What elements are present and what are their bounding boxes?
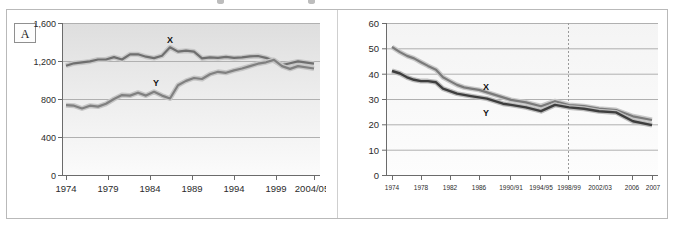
panel-b-xtick-1998-99: 1998/99 (557, 184, 581, 191)
panel-b-y-tickmarks (382, 24, 386, 176)
panel-a-ytick-0: 0 (51, 171, 56, 181)
panel-b-ytick-0: 0 (374, 170, 379, 181)
panel-a-ytick-1600: 1,600 (33, 19, 56, 29)
panel-a-y-tickmarks (58, 24, 62, 176)
panel-b: B (338, 0, 676, 229)
panel-b-xtick-1986: 1986 (472, 184, 487, 191)
panel-b-xtick-1978: 1978 (414, 184, 429, 191)
panel-b-xtick-1982: 1982 (443, 184, 458, 191)
figure-container: A (0, 0, 676, 229)
panel-a-xtick-1974: 1974 (55, 183, 76, 194)
panel-b-label-x: X (483, 82, 489, 92)
panel-a-xtick-1984: 1984 (139, 183, 160, 194)
panel-b-ytick-10: 10 (368, 145, 379, 156)
panel-a-plot: 1,600 1,200 800 400 0 1974 1979 1984 198… (14, 18, 326, 208)
panel-a-xtick-1999: 1999 (265, 183, 286, 194)
panel-b-plot: 60 50 40 30 20 10 0 1974 1978 1982 1986 … (352, 18, 664, 208)
panel-a-ytick-1200: 1,200 (33, 57, 56, 67)
panel-a-label-y: Y (153, 78, 159, 88)
panel-a-ytick-400: 400 (41, 133, 56, 143)
panel-b-xtick-2002-03: 2002/03 (588, 184, 612, 191)
panel-b-label-y: Y (483, 108, 489, 118)
panel-a-ytick-800: 800 (41, 95, 56, 105)
panel-b-svg: 60 50 40 30 20 10 0 1974 1978 1982 1986 … (352, 18, 664, 208)
panel-b-ytick-60: 60 (368, 18, 379, 29)
panel-b-ytick-20: 20 (368, 119, 379, 130)
panel-b-ytick-40: 40 (368, 69, 379, 80)
panel-a-xtick-1979: 1979 (97, 183, 118, 194)
panel-b-xtick-1990-91: 1990/91 (499, 184, 523, 191)
panel-a-xtick-1989: 1989 (181, 183, 202, 194)
panel-b-xtick-1994-95: 1994/95 (529, 184, 553, 191)
panel-b-xtick-2006: 2006 (625, 184, 640, 191)
panel-a-xtick-2004-05: 2004/05 (295, 183, 326, 194)
panel-b-xtick-2007: 2007 (646, 184, 661, 191)
panel-a: A (0, 0, 338, 229)
panel-b-xtick-1974: 1974 (385, 184, 400, 191)
panel-a-svg: 1,600 1,200 800 400 0 1974 1979 1984 198… (14, 18, 326, 208)
panel-b-ytick-30: 30 (368, 94, 379, 105)
panel-a-label-x: X (167, 35, 173, 45)
panel-a-xtick-1994: 1994 (223, 183, 244, 194)
panel-b-ytick-50: 50 (368, 43, 379, 54)
